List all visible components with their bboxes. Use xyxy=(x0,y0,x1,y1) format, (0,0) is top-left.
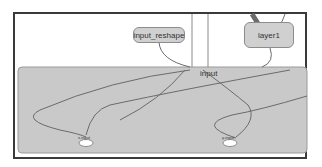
node-input-reshape-label: input_reshape xyxy=(134,31,185,40)
node-input-reshape[interactable]: input_reshape xyxy=(133,27,185,43)
x-input-label[interactable]: x-input xyxy=(78,135,90,140)
input-group-box xyxy=(18,67,307,153)
group-input-label[interactable]: input xyxy=(200,69,217,78)
node-layer1-label: layer1 xyxy=(258,31,280,40)
y-input-op xyxy=(223,140,237,147)
x-input-op xyxy=(79,140,93,147)
node-layer1[interactable]: layer1 xyxy=(244,22,294,48)
y-input-label[interactable]: y-input xyxy=(222,135,234,140)
